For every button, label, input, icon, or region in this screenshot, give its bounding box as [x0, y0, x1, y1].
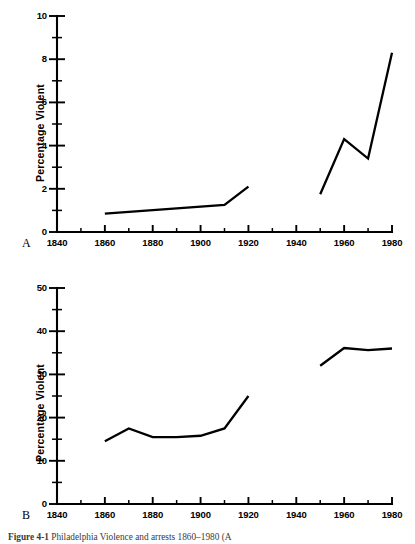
x-tick-label: 1860 — [85, 237, 125, 248]
x-tick-label: 1900 — [181, 237, 221, 248]
y-tick-label: 10 — [25, 10, 47, 21]
y-tick-label: 2 — [25, 183, 47, 194]
y-tick-label: 0 — [25, 226, 47, 237]
x-tick-label: 1840 — [37, 509, 77, 520]
caption-label: Figure 4-1 — [8, 532, 49, 542]
x-tick-label: 1880 — [133, 237, 173, 248]
plot-area-b — [0, 272, 415, 530]
x-tick-label: 1980 — [372, 509, 412, 520]
y-tick-label: 50 — [25, 282, 47, 293]
y-tick-label: 20 — [25, 412, 47, 423]
x-tick-label: 1960 — [324, 237, 364, 248]
x-tick-label: 1860 — [85, 509, 125, 520]
y-tick-label: 30 — [25, 368, 47, 379]
caption-text: Philadelphia Violence and arrests 1860–1… — [51, 532, 231, 542]
x-tick-label: 1840 — [37, 237, 77, 248]
y-tick-label: 10 — [25, 455, 47, 466]
chart-panel-b: Percentage Violent B 0102030405018401860… — [0, 272, 415, 530]
y-tick-label: 6 — [25, 96, 47, 107]
y-tick-label: 0 — [25, 498, 47, 509]
x-tick-label: 1880 — [133, 509, 173, 520]
y-tick-label: 4 — [25, 140, 47, 151]
x-tick-label: 1940 — [276, 237, 316, 248]
panel-letter-a: A — [22, 236, 31, 251]
y-tick-label: 8 — [25, 53, 47, 64]
x-tick-label: 1960 — [324, 509, 364, 520]
chart-panel-a: Percentage Violent A 0246810184018601880… — [0, 0, 415, 258]
y-tick-label: 40 — [25, 325, 47, 336]
panel-letter-b: B — [22, 508, 30, 523]
x-tick-label: 1980 — [372, 237, 412, 248]
figure-container: Percentage Violent A 0246810184018601880… — [0, 0, 415, 544]
x-tick-label: 1900 — [181, 509, 221, 520]
figure-caption: Figure 4-1 Philadelphia Violence and arr… — [8, 532, 413, 543]
x-tick-label: 1940 — [276, 509, 316, 520]
x-tick-label: 1920 — [228, 509, 268, 520]
plot-area-a — [0, 0, 415, 258]
x-tick-label: 1920 — [228, 237, 268, 248]
